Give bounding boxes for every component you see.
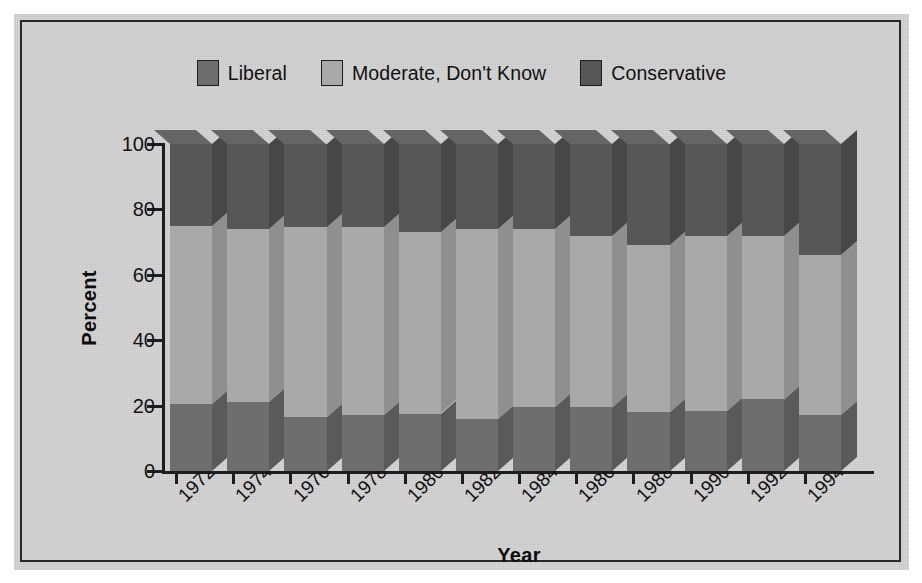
bar-top-cap <box>342 130 384 144</box>
bar-segment-front <box>227 144 269 229</box>
bar-segment-moderate <box>742 236 784 400</box>
bar-segment-conservative <box>570 144 612 236</box>
bar-top-cap <box>799 130 841 144</box>
bar-column <box>742 144 784 471</box>
bar-segment-front <box>456 419 498 471</box>
bar-segment-front <box>513 144 555 229</box>
bar-segment-front <box>342 144 384 227</box>
bar-segment-conservative <box>342 144 384 227</box>
x-axis-title: Year <box>164 544 874 567</box>
bar-segment-front <box>284 144 326 227</box>
y-axis-line <box>162 143 165 472</box>
bar-column <box>685 144 727 471</box>
bar-segment-front <box>742 236 784 400</box>
bar-segment-conservative <box>627 144 669 245</box>
bar-segment-side <box>784 222 800 400</box>
bar-segment-front <box>399 232 441 413</box>
bar-segment-side <box>384 130 400 227</box>
bar-segment-side <box>212 390 228 471</box>
bar-column <box>799 144 841 471</box>
y-tick-label: 80 <box>133 198 155 221</box>
bar-top-cap <box>627 130 669 144</box>
bar-segment-side <box>555 130 571 229</box>
bar-segment-side <box>841 241 857 415</box>
bar-segment-front <box>685 411 727 471</box>
bar-segment-side <box>498 215 514 419</box>
bar-segment-front <box>742 144 784 236</box>
bar-segment-front <box>170 226 212 404</box>
legend-swatch-icon <box>321 60 343 86</box>
y-tick-label: 20 <box>133 394 155 417</box>
legend-label: Moderate, Don't Know <box>352 62 546 85</box>
bar-segment-moderate <box>570 236 612 408</box>
bar-segment-front <box>685 144 727 236</box>
bar-top-cap <box>513 130 555 144</box>
legend-item: Liberal <box>197 60 287 86</box>
bar-segment-front <box>170 144 212 226</box>
bar-segment-liberal <box>170 404 212 471</box>
bar-segment-liberal <box>284 417 326 471</box>
bar-segment-conservative <box>284 144 326 227</box>
x-tick-mark <box>289 471 292 484</box>
bar-segment-front <box>627 245 669 412</box>
bar-segment-front <box>170 404 212 471</box>
bar-segment-side <box>269 215 285 402</box>
bar-segment-side <box>670 130 686 245</box>
bar-segment-front <box>513 407 555 471</box>
x-tick-mark <box>175 471 178 484</box>
bar-segment-conservative <box>399 144 441 232</box>
bar-segment-side <box>327 130 343 227</box>
bar-segment-moderate <box>284 227 326 417</box>
bar-segment-liberal <box>799 415 841 471</box>
y-tick-label: 40 <box>133 329 155 352</box>
bar-segment-liberal <box>342 415 384 471</box>
bar-segment-liberal <box>227 402 269 471</box>
bar-segment-moderate <box>513 229 555 407</box>
bar-segment-front <box>227 402 269 471</box>
bar-segment-side <box>384 213 400 415</box>
legend-swatch-icon <box>197 60 219 86</box>
bar-segment-front <box>685 236 727 411</box>
bar-segment-moderate <box>399 232 441 413</box>
bar-segment-liberal <box>685 411 727 471</box>
x-tick-mark <box>804 471 807 484</box>
bar-top-cap <box>227 130 269 144</box>
bar-segment-front <box>284 227 326 417</box>
bar-segment-moderate <box>685 236 727 411</box>
bar-segment-front <box>799 255 841 415</box>
legend-label: Liberal <box>228 62 287 85</box>
y-tick-label: 100 <box>122 133 155 156</box>
bar-segment-side <box>784 385 800 471</box>
bar-column <box>284 144 326 471</box>
legend-label: Conservative <box>611 62 726 85</box>
bar-segment-front <box>742 399 784 471</box>
bar-segment-side <box>269 388 285 471</box>
bar-segment-side <box>670 231 686 412</box>
bar-column <box>570 144 612 471</box>
x-tick-mark <box>632 471 635 484</box>
bar-segment-front <box>799 415 841 471</box>
bar-segment-side <box>555 393 571 471</box>
bar-segment-side <box>612 222 628 408</box>
chart-page: LiberalModerate, Don't KnowConservative … <box>0 0 922 583</box>
x-tick-mark <box>690 471 693 484</box>
bar-segment-front <box>342 227 384 415</box>
bar-segment-moderate <box>456 229 498 419</box>
bar-column <box>456 144 498 471</box>
bar-segment-conservative <box>456 144 498 229</box>
bar-segment-front <box>570 407 612 471</box>
bar-segment-moderate <box>627 245 669 412</box>
bar-segment-conservative <box>227 144 269 229</box>
bar-segment-front <box>570 236 612 408</box>
bar-segment-side <box>612 130 628 236</box>
bar-segment-side <box>212 130 228 226</box>
bar-segment-liberal <box>513 407 555 471</box>
bar-segment-side <box>555 215 571 407</box>
y-tick-label: 60 <box>133 263 155 286</box>
bar-top-cap <box>685 130 727 144</box>
x-tick-mark <box>232 471 235 484</box>
y-tick-label: 0 <box>144 460 155 483</box>
legend-item: Moderate, Don't Know <box>321 60 546 86</box>
bar-top-cap <box>170 130 212 144</box>
bar-segment-front <box>513 229 555 407</box>
